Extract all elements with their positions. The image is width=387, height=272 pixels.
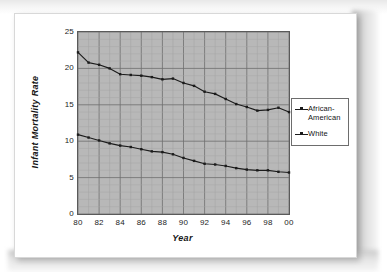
x-tick-label: 84 [116,219,125,227]
series-layer [78,32,289,214]
x-tick-label: 00 [284,219,293,227]
y-tick-label: 20 [65,64,74,72]
x-tick-label: 98 [263,219,272,227]
y-axis-title: Infant Mortality Rate [30,76,40,169]
figure-root: Infant Mortality Rate 0510152025 8082848… [0,0,387,272]
x-tick-label: 94 [221,219,230,227]
legend-label-african-american: African-American [308,104,340,122]
x-axis-title: Year [77,233,288,243]
legend-marker-icon [295,130,308,140]
chart-card: Infant Mortality Rate 0510152025 8082848… [14,13,357,258]
line-chart: Infant Mortality Rate 0510152025 8082848… [15,14,356,257]
x-tick-label: 86 [137,219,146,227]
legend-item-white[interactable]: White [295,129,345,140]
x-tick-label: 80 [73,219,82,227]
x-tick-label: 92 [200,219,209,227]
plot-area: 0510152025 8082848688909294969800 [77,31,290,215]
x-tick-label: 90 [179,219,188,227]
y-tick-label: 0 [69,210,74,218]
legend-label-white: White [308,129,328,138]
y-tick-label: 5 [69,174,74,182]
legend-marker-icon [295,105,308,115]
chart-legend: African-American White [291,98,349,146]
y-tick-label: 10 [65,137,74,145]
series-1 [77,51,290,113]
x-tick-label: 82 [94,219,103,227]
series-2 [77,133,290,173]
legend-item-african-american[interactable]: African-American [295,104,345,122]
x-tick-label: 96 [242,219,251,227]
y-tick-label: 25 [65,28,74,36]
x-tick-label: 88 [158,219,167,227]
y-tick-label: 15 [65,101,74,109]
